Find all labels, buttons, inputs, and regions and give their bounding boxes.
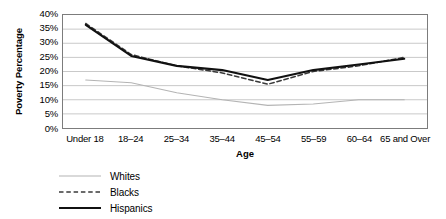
plot-area [62,14,428,129]
legend-item-label: Blacks [102,187,139,198]
x-axis-tick-label: 18–24 [118,133,143,145]
x-axis-tick-label: 35–44 [209,133,234,145]
y-axis-tick-label: 40% [22,9,58,19]
y-axis-tick-label: 25% [22,52,58,62]
x-axis-tick-label: Under 18 [66,133,103,145]
y-axis-tick-label: 10% [22,95,58,105]
legend-line-icon [58,186,102,198]
x-axis-tick-labels: Under 1818–2425–3435–4445–5455–5960–6465… [62,133,428,147]
series-line-whites [86,79,405,104]
y-axis-tick-label: 15% [22,80,58,90]
legend-line-icon [58,202,102,214]
legend-item-label: Hispanics [102,203,152,214]
y-axis-tick-label: 5% [22,109,58,119]
y-axis-tick-label: 0% [22,124,58,134]
x-axis-tick-label: 60–64 [347,133,372,145]
legend-item-label: Whites [102,171,140,182]
poverty-by-age-line-chart: Poverty Percentage 40%35%30%25%20%15%10%… [0,0,446,219]
y-axis-tick-label: 35% [22,23,58,33]
x-axis-tick-label: 25–34 [164,133,189,145]
plot-lines [63,15,427,128]
legend-item-blacks: Blacks [58,184,258,200]
x-axis-tick-label: 55–59 [301,133,326,145]
x-axis-tick-label: 45–54 [255,133,280,145]
legend-line-icon [58,170,102,182]
y-axis-tick-label: 20% [22,66,58,76]
legend-item-hispanics: Hispanics [58,200,258,216]
x-axis-tick-label: 65 and Over [380,133,430,145]
y-axis-tick-labels: 40%35%30%25%20%15%10%5%0% [22,8,58,132]
y-axis-tick-label: 30% [22,37,58,47]
legend-item-whites: Whites [58,168,258,184]
x-axis-title: Age [62,148,428,159]
chart-legend: WhitesBlacksHispanics [58,168,258,216]
